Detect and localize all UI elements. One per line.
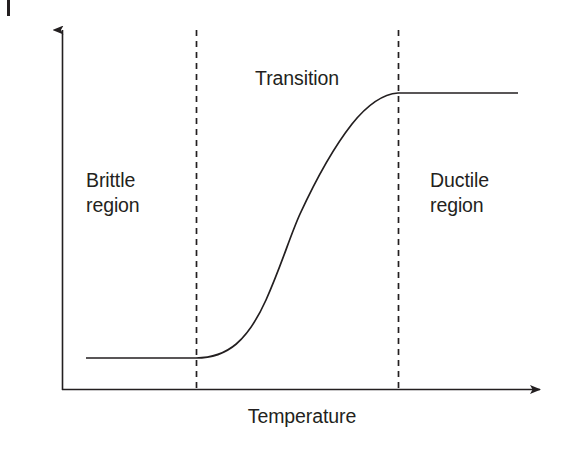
region-label-ductile: Ductile region bbox=[430, 168, 550, 218]
figure-root: Impact energy Brittle region Transition … bbox=[0, 0, 570, 449]
region-label-brittle: Brittle region bbox=[86, 168, 196, 218]
impact-energy-curve bbox=[86, 93, 518, 358]
x-axis-label: Temperature bbox=[62, 404, 542, 429]
region-label-transition: Transition bbox=[196, 66, 398, 91]
